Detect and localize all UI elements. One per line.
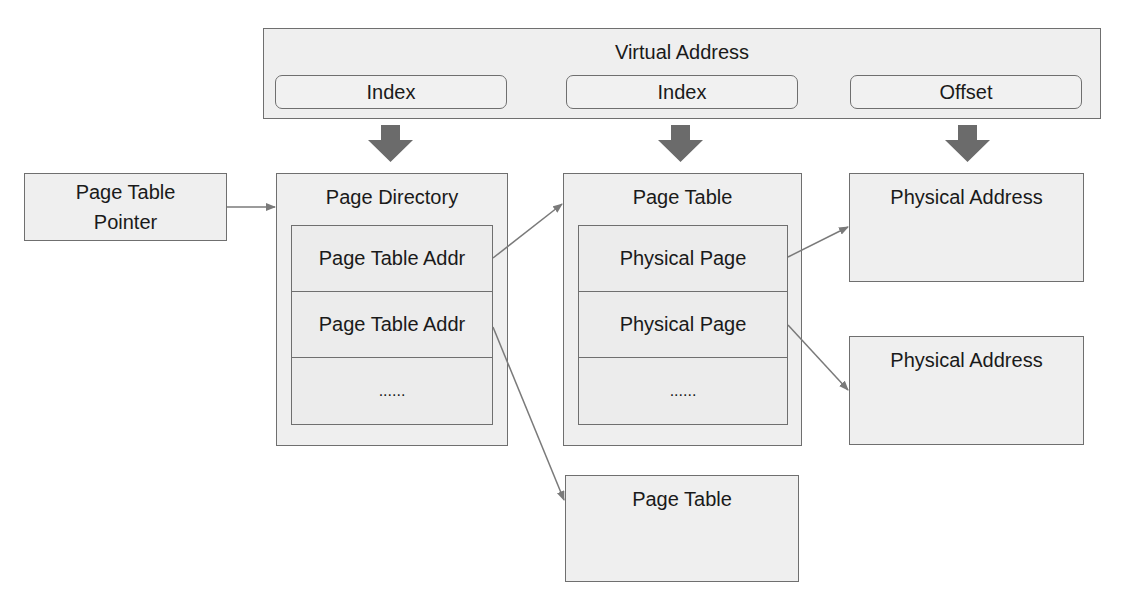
physical-address-box-1: Physical Address bbox=[849, 173, 1084, 282]
page-table-entry: Physical Page bbox=[579, 226, 787, 292]
index-field-2: Index bbox=[566, 75, 798, 109]
page-table-pointer-box: Page Table Pointer bbox=[24, 173, 227, 241]
down-arrow-icon bbox=[658, 125, 703, 162]
page-table-secondary-box: Page Table bbox=[565, 475, 799, 582]
page-directory-title: Page Directory bbox=[277, 186, 507, 209]
index-field-2-label: Index bbox=[658, 81, 707, 104]
offset-field: Offset bbox=[850, 75, 1082, 109]
page-table-entry-ellipsis: ...... bbox=[579, 358, 787, 424]
down-arrow-icon bbox=[368, 125, 413, 162]
physical-address-box-2: Physical Address bbox=[849, 336, 1084, 445]
down-arrow-icon bbox=[945, 125, 990, 162]
physical-address-title-1: Physical Address bbox=[850, 186, 1083, 209]
page-table-title: Page Table bbox=[564, 186, 801, 209]
page-table-entry: Physical Page bbox=[579, 292, 787, 358]
page-directory-box: Page Directory Page Table Addr Page Tabl… bbox=[276, 173, 508, 446]
page-table-entries: Physical Page Physical Page ...... bbox=[578, 225, 788, 425]
page-table-pointer-line2: Pointer bbox=[94, 207, 157, 237]
page-directory-entry: Page Table Addr bbox=[292, 226, 492, 292]
page-directory-entries: Page Table Addr Page Table Addr ...... bbox=[291, 225, 493, 425]
page-table-secondary-title: Page Table bbox=[566, 488, 798, 511]
index-field-1: Index bbox=[275, 75, 507, 109]
physical-address-title-2: Physical Address bbox=[850, 349, 1083, 372]
virtual-address-title: Virtual Address bbox=[264, 41, 1100, 64]
offset-field-label: Offset bbox=[940, 81, 993, 104]
index-field-1-label: Index bbox=[367, 81, 416, 104]
page-directory-entry-ellipsis: ...... bbox=[292, 358, 492, 424]
page-table-pointer-line1: Page Table bbox=[76, 177, 176, 207]
page-directory-entry: Page Table Addr bbox=[292, 292, 492, 358]
page-table-box: Page Table Physical Page Physical Page .… bbox=[563, 173, 802, 446]
